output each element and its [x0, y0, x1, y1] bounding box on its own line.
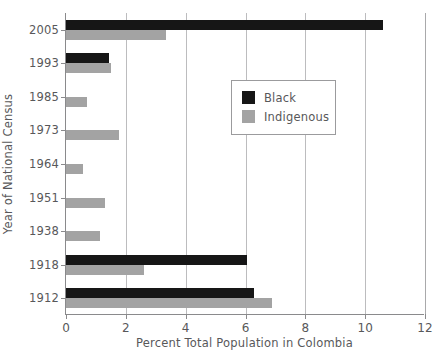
- y-axis-tick-label: 1912: [29, 291, 59, 305]
- x-axis-tick: [425, 314, 426, 319]
- x-axis-tick-label: 10: [358, 321, 373, 335]
- y-axis-tick-label: 1951: [29, 191, 59, 205]
- bar-black-1912: [66, 288, 254, 298]
- x-axis-tick: [126, 314, 127, 319]
- x-axis-tick: [246, 314, 247, 319]
- bar-indigenous-1993: [66, 63, 111, 73]
- x-axis-tick-label: 4: [182, 321, 190, 335]
- x-axis-tick-label: 8: [302, 321, 310, 335]
- legend-swatch-indigenous: [242, 110, 255, 123]
- bar-black-1918: [66, 255, 247, 265]
- x-axis-tick-label: 12: [417, 321, 432, 335]
- bar-indigenous-1964: [66, 164, 83, 174]
- legend-item-indigenous: Indigenous: [242, 107, 325, 126]
- chart-legend: Black Indigenous: [231, 80, 336, 135]
- y-axis-tick-label: 1938: [29, 224, 59, 238]
- gridline-x: [365, 13, 366, 314]
- bar-indigenous-1973: [66, 130, 119, 140]
- x-axis-tick: [66, 314, 67, 319]
- legend-label-black: Black: [264, 91, 296, 105]
- bar-indigenous-1912: [66, 298, 272, 308]
- bar-indigenous-1938: [66, 231, 100, 241]
- y-axis-tick-label: 2005: [29, 23, 59, 37]
- legend-label-indigenous: Indigenous: [264, 110, 329, 124]
- bar-black-2005: [66, 20, 383, 30]
- gridline-x: [425, 13, 426, 314]
- legend-item-black: Black: [242, 88, 325, 107]
- x-axis-tick: [186, 314, 187, 319]
- gridline-x: [246, 13, 247, 314]
- gridline-x: [305, 13, 306, 314]
- bar-indigenous-1918: [66, 265, 144, 275]
- bar-indigenous-1985: [66, 97, 87, 107]
- bar-chart: Year of National Census 0246810122005199…: [0, 0, 448, 361]
- plot-area: 0246810122005199319851973196419511938191…: [65, 13, 424, 315]
- y-axis-title: Year of National Census: [1, 94, 15, 235]
- gridline-x: [186, 13, 187, 314]
- y-axis-tick-label: 1918: [29, 258, 59, 272]
- x-axis-tick-label: 6: [242, 321, 250, 335]
- x-axis-tick: [305, 314, 306, 319]
- x-axis-tick: [365, 314, 366, 319]
- bar-black-1993: [66, 53, 109, 63]
- y-axis-tick-label: 1964: [29, 157, 59, 171]
- bar-indigenous-2005: [66, 30, 166, 40]
- x-axis-tick-label: 0: [62, 321, 70, 335]
- y-axis-tick-label: 1973: [29, 123, 59, 137]
- legend-swatch-black: [242, 91, 255, 104]
- bar-indigenous-1951: [66, 198, 105, 208]
- x-axis-title: Percent Total Population in Colombia: [65, 336, 424, 350]
- y-axis-tick-label: 1993: [29, 56, 59, 70]
- y-axis-tick-label: 1985: [29, 90, 59, 104]
- x-axis-tick-label: 2: [122, 321, 130, 335]
